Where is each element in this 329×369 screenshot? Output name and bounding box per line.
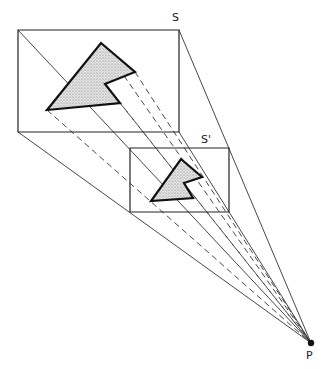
label-s: S xyxy=(172,12,179,23)
projector-line-dashed xyxy=(47,110,311,343)
projector-line-dashed xyxy=(101,43,311,343)
shape-on-s xyxy=(47,43,135,110)
projector-line-solid xyxy=(179,132,311,343)
perspective-projection-diagram: S S' P xyxy=(0,0,329,369)
projector-line-solid xyxy=(179,30,311,343)
projector-line-dashed xyxy=(135,72,311,343)
diagram-canvas xyxy=(0,0,329,369)
label-s-prime: S' xyxy=(201,134,211,145)
projector-line-solid xyxy=(18,132,311,343)
label-p: P xyxy=(306,350,313,361)
projection-point-p xyxy=(308,340,314,346)
projector-line-dashed xyxy=(120,103,311,343)
